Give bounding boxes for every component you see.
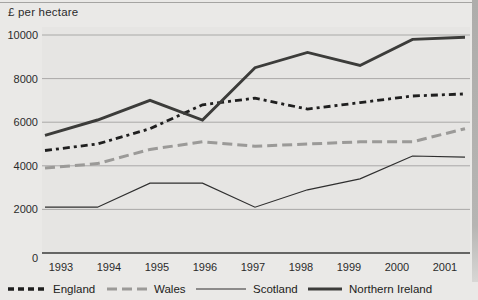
- land-price-line-chart-figure: £ per hectare 02000400060008000100001993…: [0, 0, 478, 300]
- legend-item-scotland: Scotland: [196, 279, 298, 299]
- y-tick-label-0: 0: [32, 252, 38, 264]
- legend-item-england: England: [8, 279, 95, 299]
- legend-label-northern-ireland: Northern Ireland: [349, 283, 432, 295]
- legend-label-scotland: Scotland: [253, 283, 298, 295]
- y-tick-label-6000: 6000: [14, 116, 38, 128]
- legend-item-wales: Wales: [107, 279, 186, 299]
- x-tick-label-1997: 1997: [241, 261, 265, 273]
- legend-label-england: England: [53, 283, 95, 295]
- wales-line-sample-icon: [107, 285, 147, 293]
- y-tick-label-8000: 8000: [14, 73, 38, 85]
- legend-item-northern-ireland: Northern Ireland: [308, 279, 432, 299]
- x-tick-label-1998: 1998: [289, 261, 313, 273]
- x-tick-label-1999: 1999: [337, 261, 361, 273]
- chart-legend: England Wales Scotland Northern Ireland: [0, 279, 478, 300]
- england-line-sample-icon: [8, 285, 46, 293]
- legend-label-wales: Wales: [154, 283, 186, 295]
- x-tick-label-2000: 2000: [385, 261, 409, 273]
- chart-canvas: 0200040006000800010000199319941995199619…: [0, 0, 478, 300]
- x-tick-label-1993: 1993: [49, 261, 73, 273]
- northern-ireland-line-sample-icon: [308, 285, 342, 293]
- scotland-line-sample-icon: [196, 285, 246, 293]
- plot-area: [42, 27, 470, 253]
- y-tick-label-10000: 10000: [7, 29, 38, 41]
- page-edge-shadow: [472, 0, 478, 282]
- x-tick-label-1995: 1995: [145, 261, 169, 273]
- y-tick-label-4000: 4000: [14, 160, 38, 172]
- x-tick-label-1994: 1994: [97, 261, 121, 273]
- x-tick-label-1996: 1996: [193, 261, 217, 273]
- x-tick-label-2001: 2001: [433, 261, 457, 273]
- y-tick-label-2000: 2000: [14, 203, 38, 215]
